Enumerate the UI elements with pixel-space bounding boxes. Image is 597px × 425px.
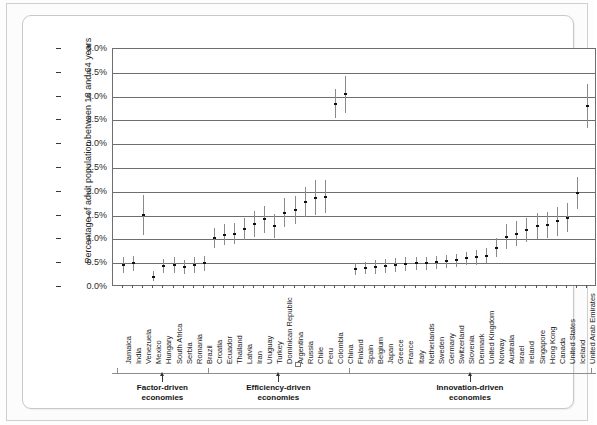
- x-category-label: Norway: [498, 339, 506, 364]
- data-point: [576, 192, 579, 194]
- x-tick-mark: [344, 285, 345, 288]
- x-category-label: Ecuador: [226, 336, 234, 364]
- x-tick-mark: [505, 285, 506, 288]
- x-tick-mark: [415, 285, 416, 288]
- x-tick-mark: [304, 285, 305, 288]
- data-point: [485, 255, 488, 257]
- data-point: [566, 217, 569, 219]
- x-tick-mark: [485, 285, 486, 288]
- data-point: [314, 197, 317, 199]
- x-tick-mark: [465, 285, 466, 288]
- y-axis-title-container: Percentage of adult population between 1…: [53, 16, 67, 296]
- x-category-label: Belgium: [377, 337, 385, 364]
- x-tick-mark: [283, 285, 284, 288]
- gridline: [113, 239, 595, 240]
- group-label: Innovation-driven economies: [410, 383, 530, 403]
- data-point: [253, 223, 256, 225]
- data-point: [334, 103, 337, 105]
- x-category-label: Colombia: [337, 332, 345, 364]
- x-tick-mark: [193, 285, 194, 288]
- data-point: [243, 228, 246, 230]
- data-point: [425, 262, 428, 264]
- data-point: [324, 196, 327, 198]
- y-tick-mark: [56, 143, 61, 144]
- y-tick-mark: [56, 286, 61, 287]
- plot-area: [112, 48, 596, 286]
- data-point: [152, 276, 155, 278]
- data-point: [404, 263, 407, 265]
- data-point: [122, 264, 125, 266]
- x-tick-mark: [364, 285, 365, 288]
- x-category-label: Slovenia: [468, 335, 476, 364]
- data-point: [455, 259, 458, 261]
- data-point: [415, 262, 418, 264]
- gridline: [113, 144, 595, 145]
- x-tick-mark: [404, 285, 405, 288]
- x-category-label: Uruguay: [266, 336, 274, 364]
- x-category-label: Croatia: [216, 340, 224, 364]
- y-tick-mark: [56, 96, 61, 97]
- x-tick-mark: [576, 285, 577, 288]
- x-category-label: Finland: [357, 339, 365, 364]
- y-axis-tick-labels: 0.0%0.5%1.0%1.5%2.0%2.5%3.0%3.5%4.0%4.5%…: [69, 48, 107, 286]
- x-tick-mark: [425, 285, 426, 288]
- y-tick-label: 5.0%: [86, 44, 107, 53]
- x-tick-mark: [243, 285, 244, 288]
- x-tick-mark: [253, 285, 254, 288]
- x-category-label: Hong Kong: [549, 326, 557, 364]
- x-category-label: Switzerland: [458, 325, 466, 364]
- group-range-end-tick: [591, 368, 592, 374]
- y-tick-mark: [56, 191, 61, 192]
- x-tick-mark: [495, 285, 496, 288]
- x-tick-mark: [536, 285, 537, 288]
- gridline: [113, 216, 595, 217]
- data-point: [203, 262, 206, 264]
- data-point: [384, 265, 387, 267]
- x-category-label: Dominican Republic: [286, 297, 294, 364]
- y-tick-mark: [56, 167, 61, 168]
- x-category-label: Turkey: [276, 341, 284, 364]
- x-tick-mark: [132, 285, 133, 288]
- x-category-label: Brazil: [206, 345, 214, 364]
- data-point: [344, 93, 347, 95]
- data-point: [223, 234, 226, 236]
- x-category-label: Serbia: [186, 342, 194, 364]
- x-tick-mark: [475, 285, 476, 288]
- group-pointer-arrow: [162, 375, 163, 382]
- x-tick-mark: [233, 285, 234, 288]
- y-tick-label: 2.5%: [86, 163, 107, 172]
- data-point: [465, 257, 468, 259]
- data-point: [283, 212, 286, 214]
- x-tick-mark: [122, 285, 123, 288]
- x-category-label: South Africa: [176, 324, 184, 364]
- x-category-label: Peru: [327, 348, 335, 364]
- x-tick-mark: [213, 285, 214, 288]
- x-category-label: Spain: [367, 345, 375, 364]
- data-point: [536, 225, 539, 227]
- y-tick-label: 4.0%: [86, 92, 107, 101]
- x-tick-mark: [374, 285, 375, 288]
- x-tick-mark: [384, 285, 385, 288]
- data-point: [354, 268, 357, 270]
- x-tick-mark: [546, 285, 547, 288]
- y-tick-mark: [56, 215, 61, 216]
- x-category-label: Romania: [196, 334, 204, 364]
- x-category-label: Latvia: [246, 344, 254, 364]
- x-category-label: Ireland: [528, 341, 536, 364]
- x-category-label: Netherlands: [428, 324, 436, 364]
- x-tick-mark: [223, 285, 224, 288]
- x-tick-mark: [556, 285, 557, 288]
- x-tick-mark: [586, 285, 587, 288]
- x-category-label: Argentina: [297, 332, 305, 364]
- x-category-label: Japan: [387, 344, 395, 364]
- y-tick-mark: [56, 119, 61, 120]
- x-tick-mark: [445, 285, 446, 288]
- y-tick-label: 0.5%: [86, 258, 107, 267]
- x-tick-mark: [203, 285, 204, 288]
- data-point: [263, 218, 266, 220]
- y-tick-mark: [56, 72, 61, 73]
- x-tick-mark: [566, 285, 567, 288]
- gridline: [113, 192, 595, 193]
- y-tick-label: 1.0%: [86, 234, 107, 243]
